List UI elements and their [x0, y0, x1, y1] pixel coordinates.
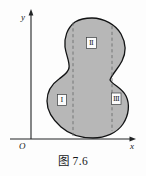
x-axis-label: x [129, 141, 134, 151]
region-label-2-group: Ⅱ [87, 38, 97, 49]
region-label-2: Ⅱ [89, 39, 94, 47]
figure-container: y x O Ⅰ Ⅱ Ⅲ 图 7.6 [0, 0, 146, 176]
region-label-1-group: Ⅰ [58, 95, 67, 106]
region-label-3: Ⅲ [113, 95, 120, 103]
region-label-3-group: Ⅲ [112, 93, 122, 105]
region-label-1: Ⅰ [61, 96, 64, 104]
figure-caption: 图 7.6 [0, 152, 146, 168]
origin-label: O [19, 141, 26, 151]
shaded-region [47, 18, 128, 138]
figure-drawing: y x O Ⅰ Ⅱ Ⅲ [0, 0, 146, 152]
y-axis-label: y [20, 12, 25, 22]
y-axis-arrowhead [29, 9, 34, 16]
